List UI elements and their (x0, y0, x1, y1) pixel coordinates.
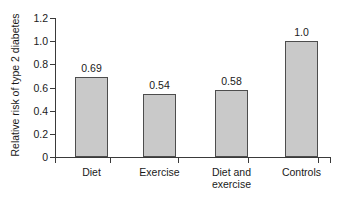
x-axis-category-label: Diet and exercise (195, 166, 268, 190)
y-axis-tick (50, 88, 56, 89)
bar-value-label: 0.54 (131, 80, 188, 91)
x-axis-category-label: Exercise (123, 166, 196, 178)
y-axis-tick-label: 0.4 (8, 106, 48, 116)
y-axis-tick (50, 111, 56, 112)
y-axis-tick-label: 1.2 (8, 13, 48, 23)
y-axis-tick-label: 0.6 (8, 83, 48, 93)
x-axis-tick (330, 158, 331, 163)
y-axis-tick (50, 64, 56, 65)
bar (285, 41, 318, 157)
y-axis-tick (50, 134, 56, 135)
y-axis-tick-label: 1.0 (8, 36, 48, 46)
bar-value-label: 0.58 (203, 76, 260, 87)
bar (75, 77, 108, 157)
x-axis-tick (318, 158, 319, 163)
y-axis-tick-label: 0 (8, 152, 48, 162)
x-axis-tick (248, 158, 249, 163)
bar-value-label: 0.69 (63, 63, 120, 74)
x-axis-tick (110, 158, 111, 163)
x-axis-tick (55, 158, 56, 163)
x-axis-line (55, 157, 331, 158)
y-axis-tick (50, 18, 56, 19)
chart-figure: Relative risk of type 2 diabetes 00.20.4… (0, 0, 337, 197)
bar (143, 94, 176, 157)
plot-area: 00.20.40.60.81.01.2 0.69Diet0.54Exercise… (0, 0, 337, 197)
y-axis-tick-label: 0.8 (8, 59, 48, 69)
x-axis-category-label: Diet (55, 166, 128, 178)
y-axis-tick-label: 0.2 (8, 129, 48, 139)
bar (215, 90, 248, 157)
x-axis-tick (178, 158, 179, 163)
y-axis-tick (50, 41, 56, 42)
bar-value-label: 1.0 (273, 27, 330, 38)
x-axis-category-label: Controls (265, 166, 337, 178)
